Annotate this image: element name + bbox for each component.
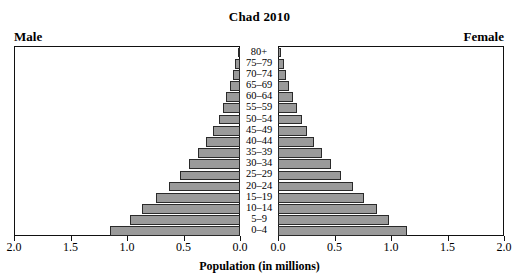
x-tick-label: 0.5 xyxy=(164,240,204,255)
age-group-axis: 80+75–7970–7465–6960–6455–5950–5445–4940… xyxy=(240,44,278,238)
age-group-label: 40–44 xyxy=(240,135,278,146)
age-group-label: 10–14 xyxy=(240,202,278,213)
x-tick-label: 2.0 xyxy=(0,240,34,255)
x-tick-label: 0.0 xyxy=(258,240,298,255)
bar-male-55-59 xyxy=(223,103,240,113)
bar-male-50-54 xyxy=(219,115,240,125)
bar-female-60-64 xyxy=(278,92,293,102)
bar-female-50-54 xyxy=(278,115,302,125)
age-group-label: 15–19 xyxy=(240,191,278,202)
bar-female-15-19 xyxy=(278,193,364,203)
x-tick-label: 0.5 xyxy=(315,240,355,255)
bar-female-80+ xyxy=(278,48,281,58)
x-tick-label: 2.0 xyxy=(484,240,519,255)
bar-male-20-24 xyxy=(169,182,240,192)
bar-female-55-59 xyxy=(278,103,297,113)
age-group-label: 65–69 xyxy=(240,79,278,90)
bar-female-70-74 xyxy=(278,70,286,80)
bar-male-30-34 xyxy=(189,159,240,169)
bar-female-45-49 xyxy=(278,126,307,136)
bar-female-35-39 xyxy=(278,148,322,158)
bar-male-35-39 xyxy=(198,148,240,158)
age-group-label: 35–39 xyxy=(240,146,278,157)
x-axis-title: Population (in millions) xyxy=(0,259,519,274)
x-tick-label: 1.0 xyxy=(107,240,147,255)
age-group-label: 20–24 xyxy=(240,180,278,191)
age-group-label: 25–29 xyxy=(240,168,278,179)
male-plot-area xyxy=(14,46,240,236)
bar-female-75-79 xyxy=(278,59,284,69)
x-tick-label: 1.5 xyxy=(428,240,468,255)
bar-male-0-4 xyxy=(110,226,240,236)
bar-male-45-49 xyxy=(213,126,240,136)
female-panel-label: Female xyxy=(464,29,504,45)
bar-male-5-9 xyxy=(130,215,240,225)
age-group-label: 80+ xyxy=(240,46,278,57)
bar-male-10-14 xyxy=(142,204,240,214)
bar-male-60-64 xyxy=(226,92,240,102)
bar-male-65-69 xyxy=(230,81,240,91)
female-plot-area xyxy=(278,46,504,236)
bar-male-70-74 xyxy=(233,70,240,80)
age-group-label: 45–49 xyxy=(240,124,278,135)
bar-female-40-44 xyxy=(278,137,314,147)
chart-title: Chad 2010 xyxy=(0,9,519,25)
age-group-label: 55–59 xyxy=(240,101,278,112)
age-group-label: 5–9 xyxy=(240,213,278,224)
population-pyramid-chart: Chad 2010 Male Female 80+75–7970–7465–69… xyxy=(0,0,519,280)
bar-male-25-29 xyxy=(180,171,240,181)
x-tick-label: 1.5 xyxy=(51,240,91,255)
bar-female-0-4 xyxy=(278,226,407,236)
bar-male-15-19 xyxy=(156,193,240,203)
age-group-label: 30–34 xyxy=(240,157,278,168)
x-tick-label: 0.0 xyxy=(220,240,260,255)
bar-female-5-9 xyxy=(278,215,389,225)
age-group-label: 75–79 xyxy=(240,57,278,68)
age-group-label: 60–64 xyxy=(240,90,278,101)
age-group-label: 0–4 xyxy=(240,224,278,235)
age-group-label: 70–74 xyxy=(240,68,278,79)
bar-female-30-34 xyxy=(278,159,331,169)
bar-female-65-69 xyxy=(278,81,289,91)
bar-female-10-14 xyxy=(278,204,377,214)
x-tick-label: 1.0 xyxy=(371,240,411,255)
age-group-label: 50–54 xyxy=(240,113,278,124)
bar-male-40-44 xyxy=(206,137,240,147)
bar-female-25-29 xyxy=(278,171,341,181)
bar-female-20-24 xyxy=(278,182,353,192)
male-panel-label: Male xyxy=(14,29,42,45)
